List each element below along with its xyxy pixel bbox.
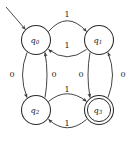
edge-label-q0-q2: 0 bbox=[9, 70, 14, 79]
edge-q0-q2 bbox=[23, 53, 28, 98]
start-arrow-icon bbox=[6, 7, 26, 30]
edge-label-q2-q0: 0 bbox=[51, 70, 56, 79]
edge-label-q3-q2: 1 bbox=[64, 119, 69, 128]
edge-q2-q0 bbox=[45, 53, 47, 98]
state-node-q3[interactable]: q3 bbox=[85, 96, 114, 125]
state-node-q0[interactable]: q0 bbox=[22, 26, 51, 55]
automaton-diagram: q0 q1 q2 q3 1 1 0 0 0 0 1 1 bbox=[0, 0, 131, 141]
edge-q1-q3 bbox=[88, 53, 90, 98]
edge-label-q1-q0: 1 bbox=[64, 41, 69, 50]
edge-q1-q0 bbox=[49, 50, 87, 57]
state-node-q2[interactable]: q2 bbox=[22, 96, 51, 125]
edge-label-q2-q3: 1 bbox=[64, 85, 69, 94]
edge-label-q3-q1: 0 bbox=[120, 70, 125, 79]
state-node-q1[interactable]: q1 bbox=[85, 26, 114, 55]
edge-label-q0-q1: 1 bbox=[64, 10, 69, 19]
edge-label-q1-q3: 0 bbox=[78, 70, 83, 79]
automaton-canvas: q0 q1 q2 q3 1 1 0 0 0 0 1 1 bbox=[0, 0, 131, 141]
edge-q3-q1 bbox=[108, 53, 113, 98]
edge-q0-q1 bbox=[49, 21, 87, 32]
edge-q2-q3 bbox=[49, 94, 87, 102]
